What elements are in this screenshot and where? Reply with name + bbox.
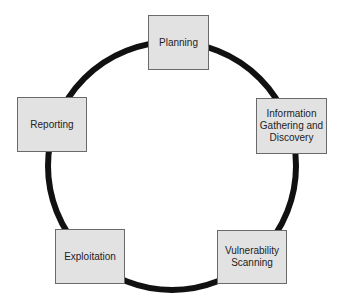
- step-vulnerability-scanning: Vulnerability Scanning: [217, 230, 287, 284]
- step-reporting: Reporting: [17, 97, 87, 152]
- penetration-testing-cycle-diagram: Planning Information Gathering and Disco…: [0, 0, 341, 305]
- step-information-gathering: Information Gathering and Discovery: [256, 98, 327, 154]
- step-exploitation: Exploitation: [55, 229, 125, 284]
- step-planning: Planning: [148, 15, 209, 70]
